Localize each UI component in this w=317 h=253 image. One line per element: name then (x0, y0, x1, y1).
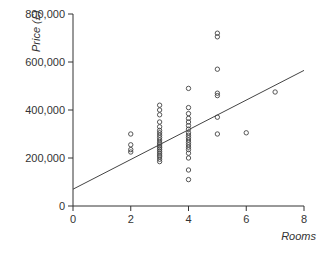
regression-line (73, 70, 304, 189)
x-axis: 02468 (70, 206, 307, 225)
data-point (273, 90, 277, 94)
x-tick-label: 0 (70, 213, 76, 225)
y-tick-label: 0 (59, 200, 65, 212)
data-point (186, 105, 190, 109)
data-point (186, 168, 190, 172)
data-point (157, 120, 161, 124)
scatter-chart: 0200,000400,000600,000800,000 02468 Pric… (0, 0, 317, 253)
data-point (157, 113, 161, 117)
x-tick-label: 4 (185, 213, 191, 225)
data-point (215, 132, 219, 136)
x-tick-label: 6 (243, 213, 249, 225)
y-tick-label: 600,000 (25, 56, 65, 68)
x-axis-title: Rooms (281, 230, 316, 242)
data-point (186, 156, 190, 160)
y-tick-label: 400,000 (25, 104, 65, 116)
x-tick-label: 2 (128, 213, 134, 225)
data-point (157, 108, 161, 112)
y-tick-label: 200,000 (25, 152, 65, 164)
data-point (129, 143, 133, 147)
data-points (129, 31, 278, 182)
data-point (129, 132, 133, 136)
data-point (244, 131, 248, 135)
x-tick-label: 8 (301, 213, 307, 225)
data-point (215, 67, 219, 71)
data-point (215, 115, 219, 119)
data-point (186, 111, 190, 115)
y-axis-title: Price (£) (30, 10, 42, 52)
data-point (157, 103, 161, 107)
data-point (186, 86, 190, 90)
data-point (186, 177, 190, 181)
